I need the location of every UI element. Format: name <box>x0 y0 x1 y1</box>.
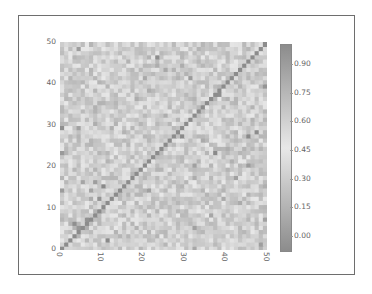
colorbar-tick-mark <box>290 121 293 122</box>
x-tick-label: 30 <box>179 252 188 262</box>
colorbar-tick-label: 0.90 <box>294 59 311 68</box>
x-tick-label: 40 <box>220 252 229 262</box>
colorbar <box>280 44 292 252</box>
colorbar-tick-mark <box>290 236 293 237</box>
colorbar-tick-label: 0.45 <box>294 145 311 154</box>
x-tick-label: 10 <box>96 252 105 262</box>
colorbar-tick-label: 0.15 <box>294 202 311 211</box>
colorbar-tick-mark <box>290 179 293 180</box>
colorbar-tick-mark <box>290 207 293 208</box>
x-tick-label: 20 <box>137 252 146 262</box>
x-tick-label: 50 <box>262 252 271 262</box>
colorbar-tick-mark <box>290 64 293 65</box>
y-tick-label: 50 <box>36 37 56 46</box>
y-tick-label: 20 <box>36 161 56 170</box>
colorbar-tick-mark <box>290 93 293 94</box>
heatmap-canvas <box>60 42 267 250</box>
y-tick-label: 10 <box>36 203 56 212</box>
colorbar-tick-label: 0.60 <box>294 116 311 125</box>
heatmap-plot-area <box>60 42 267 250</box>
y-tick-label: 0 <box>36 244 56 253</box>
colorbar-tick-mark <box>290 150 293 151</box>
y-tick-label: 40 <box>36 78 56 87</box>
x-tick-label: 0 <box>55 252 64 257</box>
y-tick-label: 30 <box>36 120 56 129</box>
colorbar-tick-label: 0.00 <box>294 231 311 240</box>
colorbar-tick-label: 0.30 <box>294 174 311 183</box>
colorbar-tick-label: 0.75 <box>294 88 311 97</box>
